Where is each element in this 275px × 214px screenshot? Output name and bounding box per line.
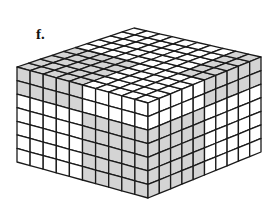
left-face-cell — [43, 156, 56, 173]
left-face-cell — [83, 166, 96, 183]
left-face-cell — [56, 159, 69, 176]
left-face-cell — [135, 181, 148, 198]
cube-diagram — [0, 0, 275, 214]
left-face-cell — [69, 163, 82, 180]
left-face-cell — [109, 174, 122, 191]
left-face-cell — [96, 170, 109, 187]
left-face-cell — [30, 152, 43, 169]
left-face-cell — [17, 148, 30, 165]
left-face-cell — [122, 177, 135, 194]
